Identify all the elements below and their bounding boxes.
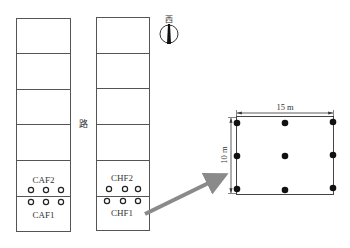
label-caf2: CAF2: [32, 175, 54, 185]
width-label: 15 m: [276, 102, 294, 112]
road-label: 路: [79, 118, 88, 129]
label-chf2: CHF2: [111, 173, 133, 183]
plot-layout-diagram: CAF2 CAF1 路 CHF2 CHF1 西 15 m 10 m: [0, 0, 350, 248]
compass-icon: 西: [160, 15, 178, 44]
right-sample-circles: [104, 186, 140, 203]
sample-points: [234, 119, 337, 194]
zoom-arrow: [145, 175, 225, 214]
label-chf1: CHF1: [111, 208, 133, 218]
label-caf1: CAF1: [32, 210, 54, 220]
height-label: 10 m: [219, 146, 229, 164]
compass-label: 西: [165, 15, 173, 24]
sampling-detail: 15 m 10 m: [219, 102, 336, 195]
